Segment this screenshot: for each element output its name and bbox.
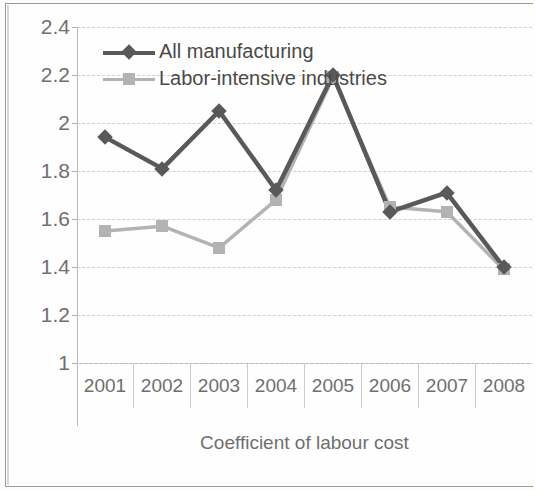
legend-label-all-manufacturing: All manufacturing — [155, 40, 314, 63]
legend-marker-diamond-icon — [103, 43, 155, 61]
y-axis-tick-label: 2.2 — [8, 64, 70, 85]
x-axis-category-label: 2007 — [418, 364, 475, 408]
y-axis-tick-label: 2 — [8, 112, 70, 133]
legend-label-labor-intensive-industries: Labor-intensive industries — [155, 67, 387, 90]
x-axis-category-label: 2005 — [304, 364, 361, 408]
x-axis-category-label: 2004 — [247, 364, 304, 408]
x-axis-category-label: 2008 — [475, 364, 532, 408]
legend-item-labor-intensive-industries: Labor-intensive industries — [103, 65, 433, 92]
x-axis-category-label: 2003 — [190, 364, 247, 408]
y-axis-tick-label: 1.2 — [8, 304, 70, 325]
x-axis-category-labels: 20012002200320042005200620072008 — [77, 364, 532, 408]
x-axis-category-label: 2002 — [133, 364, 190, 408]
data-point-square — [99, 225, 111, 237]
x-axis-title: Coefficient of labour cost — [77, 432, 532, 454]
legend-marker-square-icon — [103, 70, 155, 88]
y-axis-tick-label: 1.8 — [8, 160, 70, 181]
data-point-square — [156, 220, 168, 232]
x-axis-category-label: 2006 — [361, 364, 418, 408]
y-axis-tick-label: 2.4 — [8, 16, 70, 37]
chart-page: 2.42.221.81.61.41.21 All manufacturing L… — [0, 0, 535, 491]
data-point-square — [441, 206, 453, 218]
y-axis-tick-label: 1 — [8, 352, 70, 373]
y-axis-tick-label: 1.6 — [8, 208, 70, 229]
chart-legend: All manufacturing Labor-intensive indust… — [103, 38, 433, 92]
y-axis-tick-label: 1.4 — [8, 256, 70, 277]
data-point-square — [213, 242, 225, 254]
legend-item-all-manufacturing: All manufacturing — [103, 38, 433, 65]
x-axis-category-label: 2001 — [77, 364, 133, 408]
